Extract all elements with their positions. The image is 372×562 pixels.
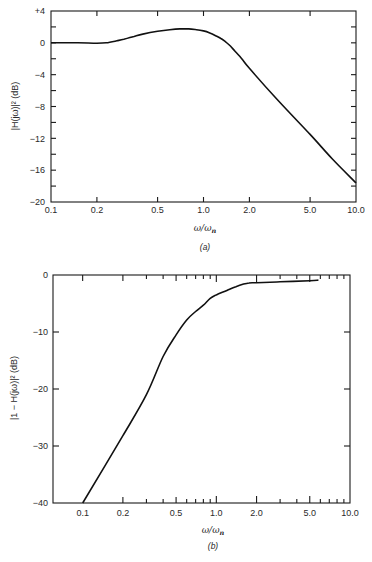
x-tick-label: 0.2 — [91, 205, 104, 215]
y-tick-label: −20 — [33, 384, 48, 394]
y-tick-label: +4 — [35, 6, 45, 16]
chart-b-y-axis-label-text: |1 − H(jω)|² (dB) — [9, 356, 19, 420]
x-tick-label: 5.0 — [304, 205, 317, 215]
y-tick-label: −20 — [30, 197, 45, 207]
response-curve — [83, 280, 319, 503]
y-tick-label: −4 — [35, 70, 45, 80]
chart-a-y-axis-label-text: |H(jω)|² (dB) — [10, 82, 20, 131]
y-tick-label: 0 — [40, 38, 45, 48]
x-tick-label: 0.2 — [117, 508, 130, 518]
chart-b-x-axis-label-main: ω/ω — [202, 525, 220, 535]
figure-canvas: 0.10.20.51.02.05.010.0+40−4−8−12−16−20 0… — [0, 0, 372, 562]
chart-a-caption: (a) — [200, 242, 210, 252]
x-tick-label: 2.0 — [250, 508, 263, 518]
x-tick-label: 0.1 — [76, 508, 89, 518]
chart-a-magnitude-response: 0.10.20.51.02.05.010.0+40−4−8−12−16−20 — [30, 6, 365, 215]
response-curve — [51, 29, 356, 183]
x-tick-label: 0.5 — [170, 508, 183, 518]
x-tick-label: 1.0 — [197, 205, 210, 215]
x-tick-label: 2.0 — [243, 205, 256, 215]
chart-b-y-axis-label: |1 − H(jω)|² (dB) — [9, 356, 19, 420]
chart-b-x-axis-label: ω/ωn — [202, 525, 224, 537]
chart-b-caption: (b) — [208, 541, 218, 551]
chart-b-complement-response: 0.10.20.51.02.05.010.00−10−20−30−40 — [33, 270, 359, 518]
y-tick-label: −16 — [30, 165, 45, 175]
x-tick-label: 10.0 — [341, 508, 359, 518]
y-tick-label: −40 — [33, 498, 48, 508]
x-tick-label: 0.1 — [45, 205, 58, 215]
y-tick-label: −10 — [33, 327, 48, 337]
y-tick-label: −30 — [33, 441, 48, 451]
x-tick-label: 5.0 — [304, 508, 317, 518]
chart-a-x-axis-label: ω/ωn — [194, 223, 216, 235]
chart-a-x-axis-label-main: ω/ω — [194, 223, 212, 233]
x-tick-label: 10.0 — [347, 205, 365, 215]
y-tick-label: −8 — [35, 102, 45, 112]
chart-b-x-axis-label-subscript: n — [219, 529, 224, 537]
chart-a-x-axis-label-subscript: n — [211, 227, 216, 235]
y-tick-label: 0 — [43, 270, 48, 280]
x-tick-label: 0.5 — [151, 205, 164, 215]
x-tick-label: 1.0 — [210, 508, 223, 518]
plot-frame — [51, 11, 356, 202]
chart-a-y-axis-label: |H(jω)|² (dB) — [10, 82, 20, 131]
y-tick-label: −12 — [30, 134, 45, 144]
plot-frame — [53, 275, 350, 503]
